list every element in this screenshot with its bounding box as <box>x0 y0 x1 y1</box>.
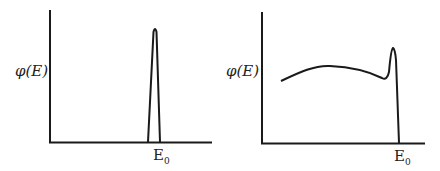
left-tick-main: E <box>153 146 164 164</box>
right-x-tick-e0: E0 <box>394 147 411 167</box>
diagrams <box>0 0 440 171</box>
right-tick-sub: 0 <box>405 157 411 167</box>
left-tick-sub: 0 <box>164 156 170 166</box>
right-chart <box>261 12 425 144</box>
right-tick-main: E <box>394 147 405 165</box>
right-spectrum-curve <box>281 48 399 143</box>
left-x-tick-e0: E0 <box>153 146 170 166</box>
left-narrow-peak <box>148 29 160 142</box>
left-y-axis-label: φ(E) <box>15 62 48 80</box>
left-chart <box>49 10 212 143</box>
right-y-axis-label: φ(E) <box>226 62 259 80</box>
